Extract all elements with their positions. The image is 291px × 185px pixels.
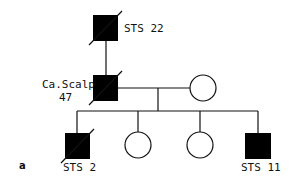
gen2-female-spouse (190, 75, 216, 101)
gen1-label: STS 22 (124, 22, 164, 35)
gen3-female-unaffected (187, 132, 213, 158)
panel-label: a (19, 160, 26, 171)
gen3-male-affected (245, 133, 271, 159)
gen3-child1-label: STS 2 (63, 161, 96, 174)
gen3-child4-label: STS 11 (241, 161, 281, 174)
gen2-label-diagnosis: Ca.Scalp (42, 78, 95, 91)
gen3-female-unaffected (125, 132, 151, 158)
pedigree-diagram: STS 22 Ca.Scalp 47 STS 2 STS 11 a (0, 0, 291, 185)
gen3-male-affected-deceased (61, 129, 94, 163)
gen1-male-affected-deceased (89, 11, 122, 45)
gen2-label-age: 47 (59, 91, 72, 104)
